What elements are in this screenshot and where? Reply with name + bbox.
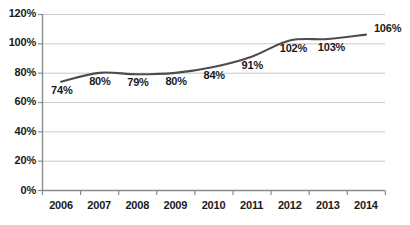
y-axis-tick-label: 100% [0, 36, 36, 48]
data-point-label: 79% [127, 76, 148, 88]
data-point-label: 80% [165, 75, 186, 87]
y-axis-tick-label: 80% [0, 66, 36, 78]
y-axis-tick-label: 60% [0, 95, 36, 107]
data-point-label: 91% [242, 59, 263, 71]
line-chart: 0%20%40%60%80%100%120% 20062007200820092… [0, 0, 410, 225]
y-axis-tick-label: 120% [0, 7, 36, 19]
data-point-label: 84% [204, 69, 225, 81]
data-point-label: 80% [89, 75, 110, 87]
data-point-label: 106% [374, 22, 401, 34]
data-point-label: 102% [280, 42, 307, 54]
y-tick-group [38, 15, 42, 191]
chart-plot-area [0, 0, 410, 225]
data-point-label: 74% [51, 84, 72, 96]
gridline-group [42, 15, 385, 162]
data-point-label: 103% [318, 41, 345, 53]
x-axis-tick-label: 2014 [344, 199, 388, 211]
y-axis-tick-label: 40% [0, 125, 36, 137]
y-axis-tick-label: 0% [0, 184, 36, 196]
y-axis-tick-label: 20% [0, 154, 36, 166]
